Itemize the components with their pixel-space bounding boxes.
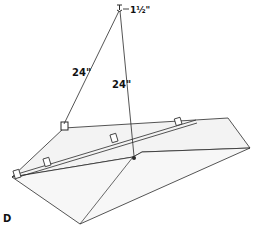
- anchor-point: [132, 156, 136, 160]
- hook-spacing-label: 1½": [130, 5, 150, 15]
- hook-icon: [117, 5, 129, 12]
- hanging-roof-diagram: 1½" 24" 24" D: [0, 0, 253, 226]
- right-wire-length-label: 24": [112, 79, 131, 90]
- figure-label: D: [3, 213, 11, 224]
- left-wire-length-label: 24": [72, 67, 91, 78]
- roof-panels: [12, 118, 250, 224]
